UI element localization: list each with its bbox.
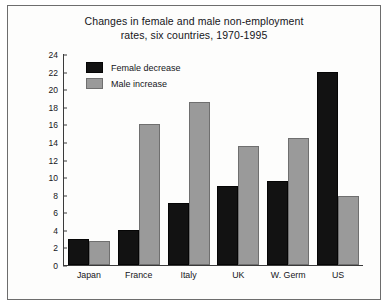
bar-w-germ-female-decrease (267, 181, 288, 265)
bar-group (217, 54, 259, 265)
y-axis-tick-label: 4 (53, 226, 63, 236)
chart-title: Changes in female and male non-employmen… (8, 14, 380, 42)
x-axis-label: Japan (67, 270, 111, 280)
y-axis-tick-label: 18 (49, 103, 63, 113)
bar-italy-female-decrease (168, 203, 189, 265)
bar-japan-male-increase (89, 241, 110, 265)
bar-france-female-decrease (118, 230, 139, 265)
bar-group (317, 54, 359, 265)
y-axis-tick-label: 22 (49, 68, 63, 78)
x-axis-label: US (316, 270, 360, 280)
y-axis-tick-label: 14 (49, 138, 63, 148)
y-axis-tick-label: 16 (49, 120, 63, 130)
chart-legend: Female decrease Male increase (86, 62, 181, 94)
x-axis-line (63, 265, 363, 266)
bar-italy-male-increase (189, 102, 210, 265)
y-axis-tick-label: 10 (49, 173, 63, 183)
y-axis-tick-label: 8 (53, 191, 63, 201)
x-axis-label: UK (216, 270, 260, 280)
bar-uk-male-increase (238, 146, 259, 265)
bar-w-germ-male-increase (288, 138, 309, 265)
legend-label-male-increase: Male increase (111, 79, 167, 89)
y-axis-tick-mark (63, 266, 67, 267)
legend-label-female-decrease: Female decrease (111, 63, 181, 73)
y-axis-tick-label: 2 (53, 243, 63, 253)
x-axis-labels: JapanFranceItalyUKW. GermUS (64, 270, 363, 280)
chart-title-line-1: Changes in female and male non-employmen… (8, 14, 380, 28)
bar-us-male-increase (338, 196, 359, 265)
legend-swatch-female-decrease (86, 62, 103, 73)
y-axis-tick-label: 0 (53, 261, 63, 271)
x-axis-label: W. Germ (266, 270, 310, 280)
x-axis-label: France (117, 270, 161, 280)
legend-item-male-increase: Male increase (86, 78, 181, 89)
y-axis-tick-label: 6 (53, 208, 63, 218)
legend-swatch-male-increase (86, 78, 103, 89)
y-axis-tick-label: 20 (49, 85, 63, 95)
chart-frame: Changes in female and male non-employmen… (7, 5, 381, 300)
bar-us-female-decrease (317, 72, 338, 265)
legend-item-female-decrease: Female decrease (86, 62, 181, 73)
y-axis-tick-label: 12 (49, 156, 63, 166)
bar-japan-female-decrease (68, 239, 89, 265)
bar-uk-female-decrease (217, 186, 238, 265)
bar-group (267, 54, 309, 265)
chart-title-line-2: rates, six countries, 1970-1995 (8, 28, 380, 42)
bar-france-male-increase (139, 124, 160, 265)
x-axis-label: Italy (167, 270, 211, 280)
y-axis-tick-label: 24 (49, 50, 63, 60)
